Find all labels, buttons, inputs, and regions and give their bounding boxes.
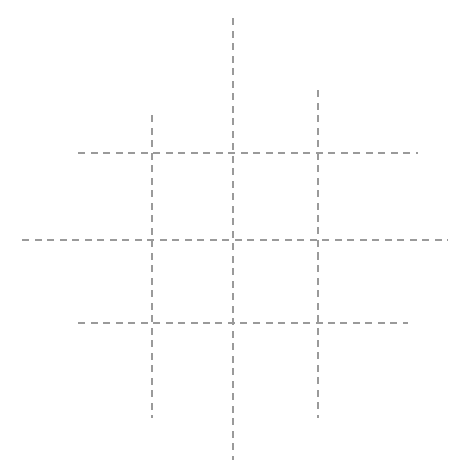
- grid-line-group: [22, 18, 448, 460]
- dashed-grid-svg: [0, 0, 466, 476]
- diagram-canvas: [0, 0, 466, 476]
